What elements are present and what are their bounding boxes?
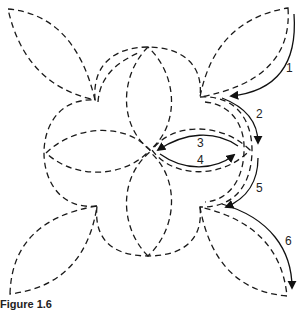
arrow-2 (222, 98, 258, 143)
leaf-top-right (200, 8, 288, 97)
scallop-outline (44, 47, 252, 256)
scallop-echo-right (205, 102, 244, 202)
step-label-6: 6 (285, 234, 292, 248)
petal-left (46, 130, 150, 172)
scallop-bottom (97, 206, 201, 256)
leaf-bottom-right (200, 207, 287, 296)
scallop-echo-top-left (98, 52, 140, 102)
scallop-left (44, 100, 97, 206)
leaf-bottom-left (10, 206, 97, 294)
arrow-6 (222, 204, 292, 288)
step-label-3: 3 (197, 136, 204, 150)
step-label-1: 1 (286, 61, 293, 75)
petal-bottom (127, 152, 172, 256)
petal-top (127, 47, 172, 150)
stitch-arrows (158, 14, 294, 288)
step-label-5: 5 (256, 181, 263, 195)
step-label-2: 2 (256, 107, 263, 121)
outer-leaves (8, 8, 288, 296)
step-label-4: 4 (197, 153, 204, 167)
inner-petals (46, 47, 250, 256)
scallop-top (95, 47, 201, 100)
leaf-top-left (8, 9, 95, 100)
figure-caption: Figure 1.6 (0, 298, 52, 310)
